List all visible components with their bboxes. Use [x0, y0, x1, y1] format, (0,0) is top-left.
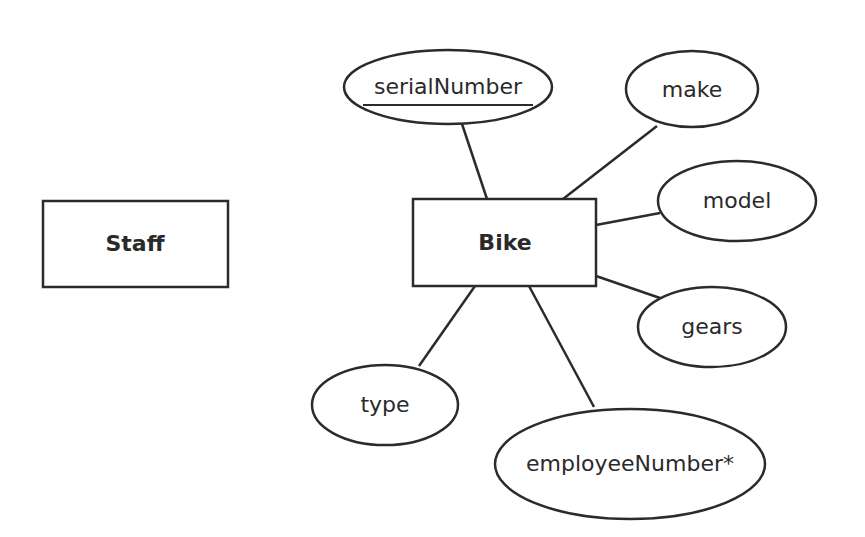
- connector-bike-gears: [596, 276, 660, 298]
- attribute-make-label: make: [662, 77, 722, 102]
- entity-bike-label: Bike: [478, 230, 531, 255]
- attribute-gears-label: gears: [681, 314, 743, 339]
- connector-bike-employeenumber: [529, 286, 594, 407]
- attribute-serialnumber-label: serialNumber: [374, 74, 523, 99]
- attribute-employeenumber: employeeNumber*: [495, 409, 765, 519]
- attribute-model: model: [658, 161, 816, 241]
- er-diagram: Staff Bike serialNumber make model gears…: [0, 0, 865, 537]
- connector-bike-serialnumber: [462, 124, 487, 199]
- entity-staff: Staff: [43, 201, 228, 287]
- entity-bike: Bike: [413, 199, 596, 286]
- connector-bike-model: [596, 213, 660, 225]
- attribute-model-label: model: [703, 188, 772, 213]
- attribute-gears: gears: [638, 287, 786, 367]
- attribute-type: type: [312, 365, 458, 445]
- attribute-type-label: type: [360, 392, 409, 417]
- connector-bike-make: [563, 126, 657, 199]
- attribute-make: make: [626, 51, 758, 127]
- attribute-serialnumber: serialNumber: [344, 50, 552, 124]
- attribute-employeenumber-label: employeeNumber*: [526, 451, 734, 476]
- entity-staff-label: Staff: [105, 231, 165, 256]
- connector-bike-type: [419, 286, 475, 366]
